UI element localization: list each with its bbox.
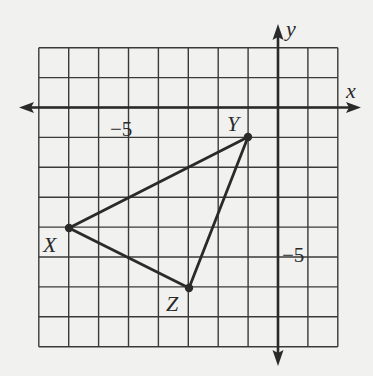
y-axis-label: y — [284, 16, 296, 41]
vertex-y-point — [244, 133, 252, 141]
x-axis-label: x — [345, 78, 356, 103]
x-tick-label-neg5: −5 — [110, 117, 132, 141]
vertex-x-point — [65, 224, 73, 232]
vertex-z-label: Z — [166, 291, 179, 316]
y-axis: y — [273, 16, 297, 366]
vertex-y-label: Y — [227, 111, 242, 136]
vertex-z-point — [185, 284, 193, 292]
y-tick-label-neg5: −5 — [282, 243, 304, 267]
vertex-x-label: X — [42, 232, 58, 257]
x-axis: x — [19, 78, 361, 113]
coordinate-plane: x y −5 −5 X Y Z — [0, 0, 373, 376]
grid-lines — [39, 48, 338, 347]
